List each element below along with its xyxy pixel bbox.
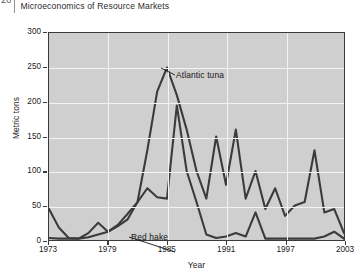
x-axis-tick-mark: [226, 241, 227, 245]
y-axis-tick-mark: [43, 241, 47, 242]
x-axis-tick-label: 1979: [85, 245, 129, 254]
x-axis-tick-mark: [345, 241, 346, 245]
y-axis-tick-mark: [43, 137, 47, 138]
y-axis-tick-mark: [43, 32, 47, 33]
y-axis-tick-label: 50: [0, 202, 41, 210]
x-axis-tick-label: 1997: [264, 245, 308, 254]
x-axis-tick-label: 1991: [204, 245, 248, 254]
header-divider: [14, 0, 15, 13]
y-axis-tick-mark: [43, 206, 47, 207]
y-axis-tick-mark: [43, 67, 47, 68]
y-axis-tick-label: 100: [0, 167, 41, 175]
x-axis-tick-mark: [107, 241, 108, 245]
chapter-title: Microeconomics of Resource Markets: [20, 0, 169, 13]
y-axis-tick-label: 250: [0, 63, 41, 71]
x-axis-tick-label: 2003: [323, 245, 360, 254]
x-axis-tick-mark: [167, 241, 168, 245]
x-axis-tick-mark: [48, 241, 49, 245]
y-axis-tick-mark: [43, 171, 47, 172]
running-head: 20 Microeconomics of Resource Markets: [0, 0, 360, 17]
y-axis-tick-label: 300: [0, 28, 41, 36]
y-axis-tick-mark: [43, 102, 47, 103]
y-axis-tick-label: 150: [0, 133, 41, 141]
y-axis-tick-label: 200: [0, 98, 41, 106]
x-axis-tick-label: 1985: [145, 245, 189, 254]
x-axis-tick-label: 1973: [26, 245, 70, 254]
y-axis-tick-label: 0: [0, 237, 41, 245]
x-axis-tick-mark: [286, 241, 287, 245]
fisheries-line-chart: Metric tons Year Atlantic tuna Red hake …: [0, 17, 360, 274]
page-number: 20: [1, 0, 11, 5]
leader-lines: [0, 17, 360, 274]
